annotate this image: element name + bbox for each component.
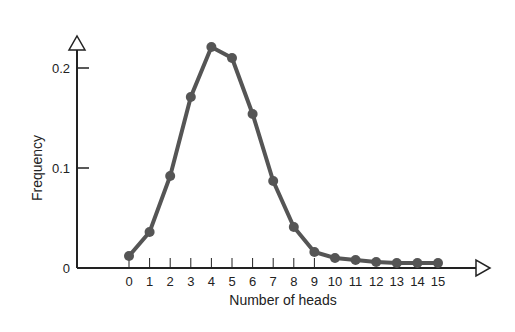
y-tick-label: 0.2: [52, 61, 70, 76]
data-point: [330, 253, 340, 263]
x-tick-label: 15: [431, 274, 445, 289]
data-point: [248, 109, 258, 119]
x-tick-label: 8: [290, 274, 297, 289]
data-point: [165, 171, 175, 181]
x-tick-label: 5: [228, 274, 235, 289]
x-axis-arrow-icon: [476, 260, 490, 276]
x-axis-label: Number of heads: [229, 292, 336, 308]
x-tick-label: 2: [167, 274, 174, 289]
frequency-chart: 00.10.2 0123456789101112131415 Number of…: [0, 0, 515, 332]
x-tick-label: 0: [125, 274, 132, 289]
data-point: [433, 258, 443, 268]
x-tick-label: 4: [208, 274, 215, 289]
x-tick-label: 6: [249, 274, 256, 289]
data-point: [227, 53, 237, 63]
y-tick-label: 0: [63, 261, 70, 276]
data-point: [412, 258, 422, 268]
data-point: [351, 255, 361, 265]
data-point: [289, 222, 299, 232]
data-markers: [124, 42, 443, 268]
data-point: [371, 257, 381, 267]
y-axis-label: Frequency: [29, 135, 45, 201]
y-ticks: 00.10.2: [52, 61, 89, 276]
data-point: [392, 258, 402, 268]
y-axis-arrow-icon: [69, 36, 85, 50]
data-point: [268, 176, 278, 186]
data-point: [309, 247, 319, 257]
x-tick-label: 10: [328, 274, 342, 289]
series-line: [129, 47, 438, 263]
x-tick-label: 11: [349, 274, 363, 289]
data-point: [206, 42, 216, 52]
data-point: [145, 227, 155, 237]
x-tick-label: 14: [410, 274, 424, 289]
x-tick-label: 9: [311, 274, 318, 289]
x-tick-label: 7: [270, 274, 277, 289]
x-tick-label: 1: [146, 274, 153, 289]
data-point: [124, 251, 134, 261]
y-tick-label: 0.1: [52, 161, 70, 176]
x-tick-label: 3: [187, 274, 194, 289]
x-tick-label: 13: [390, 274, 404, 289]
data-point: [186, 92, 196, 102]
x-tick-label: 12: [369, 274, 383, 289]
